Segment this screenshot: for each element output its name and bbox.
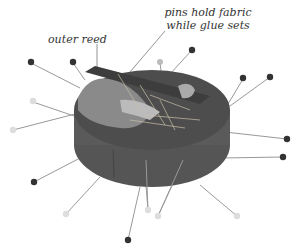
pins-label-line-2: while glue sets <box>162 19 254 32</box>
pin-head-dark <box>31 179 37 185</box>
pin-head-dark <box>189 47 195 53</box>
pin-head-light <box>63 211 69 217</box>
pin-head-light <box>145 207 151 213</box>
pins-leader-line <box>130 31 165 72</box>
pins-label: pins hold fabric while glue sets <box>162 6 254 32</box>
pin-head-dark <box>284 136 290 142</box>
pin-head-dark <box>125 237 131 243</box>
pin-head-dark <box>280 154 286 160</box>
pin-head-light <box>157 59 163 65</box>
pin-head-dark <box>70 59 76 65</box>
pins-label-line-1: pins hold fabric <box>162 6 254 19</box>
basket-base-photo <box>0 0 292 252</box>
pin-head-dark <box>240 75 246 81</box>
pin-head-light <box>234 213 240 219</box>
pin-head-dark <box>267 74 273 80</box>
pin-head-dark <box>28 59 34 65</box>
illustration: pins hold fabric while glue sets outer r… <box>0 0 292 252</box>
pin-head-light <box>30 98 36 104</box>
pin-head-light <box>10 127 16 133</box>
pin-head-light <box>155 213 161 219</box>
outer-reed-label: outer reed <box>48 33 107 46</box>
